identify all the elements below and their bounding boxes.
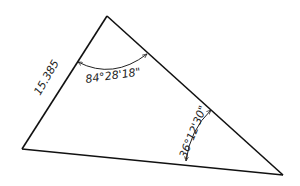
side-left-length-label: 15.385 <box>31 58 62 98</box>
angle-top-label: 84°28'18" <box>85 65 142 86</box>
triangle-diagram: 15.385 84°28'18" 36°12'30" <box>0 0 300 186</box>
side-bottom <box>22 149 283 175</box>
side-right <box>107 16 283 175</box>
angle-right-label: 36°12'30" <box>177 104 210 160</box>
